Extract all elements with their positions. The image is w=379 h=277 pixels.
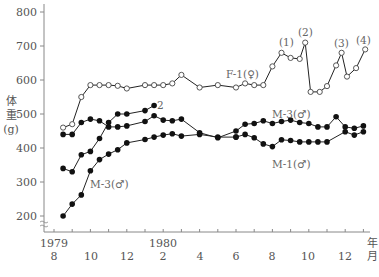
open-marker-icon (97, 83, 102, 88)
label-m3-upper: M-3(♂) (272, 108, 311, 120)
filled-marker-icon (270, 121, 276, 127)
filled-marker-icon (142, 137, 148, 143)
filled-marker-icon (124, 140, 130, 146)
filled-marker-icon (288, 138, 294, 144)
filled-marker-icon (124, 123, 130, 129)
open-marker-icon (297, 56, 302, 61)
filled-marker-icon (352, 132, 358, 138)
filled-marker-icon (315, 124, 321, 130)
filled-marker-icon (97, 157, 103, 163)
filled-marker-icon (306, 121, 312, 127)
label-f1: F-1(♀) (226, 68, 259, 80)
filled-marker-icon (361, 123, 367, 129)
filled-marker-icon (306, 139, 312, 145)
filled-marker-icon (179, 116, 185, 122)
series-4 (60, 131, 239, 219)
svg-text:体: 体 (6, 94, 17, 108)
svg-text:8: 8 (51, 250, 58, 263)
series-layer (60, 40, 368, 219)
filled-marker-icon (342, 129, 348, 135)
open-marker-icon (344, 74, 349, 79)
filled-marker-icon (242, 121, 248, 127)
open-marker-icon (124, 86, 129, 91)
open-marker-icon (106, 83, 111, 88)
open-marker-icon (308, 89, 313, 94)
open-marker-icon (317, 89, 322, 94)
open-marker-icon (339, 50, 344, 55)
filled-marker-icon (251, 121, 257, 127)
filled-marker-icon (79, 152, 85, 158)
x-unit-year: 年 (367, 236, 378, 250)
filled-marker-icon (333, 114, 339, 120)
filled-marker-icon (242, 132, 248, 138)
svg-text:12: 12 (120, 250, 134, 263)
filled-marker-icon (261, 118, 267, 124)
filled-marker-icon (297, 139, 303, 145)
filled-marker-icon (79, 120, 85, 126)
label-m2: 2 (157, 99, 164, 111)
annotation-4: (4) (356, 34, 371, 46)
svg-text:12: 12 (338, 250, 352, 263)
svg-text:10: 10 (84, 250, 98, 263)
open-marker-icon (354, 66, 359, 71)
open-marker-icon (161, 83, 166, 88)
open-marker-icon (197, 85, 202, 90)
filled-marker-icon (297, 120, 303, 126)
y-tick-600: 600 (16, 74, 37, 87)
filled-marker-icon (142, 108, 148, 114)
filled-marker-icon (251, 135, 257, 141)
y-tick-800: 800 (16, 6, 37, 19)
open-marker-icon (61, 125, 66, 130)
filled-marker-icon (69, 169, 75, 175)
filled-marker-icon (315, 139, 321, 145)
filled-marker-icon (270, 144, 276, 150)
open-marker-icon (79, 94, 84, 99)
x-unit-month: 月 (367, 250, 378, 263)
filled-marker-icon (60, 166, 66, 172)
filled-marker-icon (142, 119, 148, 125)
open-marker-icon (288, 55, 293, 60)
x-year-1980: 1980 (149, 237, 177, 250)
open-marker-icon (142, 83, 147, 88)
filled-marker-icon (170, 118, 176, 124)
filled-marker-icon (124, 111, 130, 117)
svg-text:2: 2 (160, 250, 167, 263)
y-tick-700: 700 (16, 40, 37, 53)
y-ticks (40, 12, 44, 216)
y-tick-labels: 800 700 600 500 400 300 200 (16, 6, 37, 223)
filled-marker-icon (115, 147, 121, 153)
y-tick-500: 500 (16, 108, 37, 121)
filled-marker-icon (88, 116, 94, 122)
filled-marker-icon (160, 132, 166, 138)
series-0 (61, 40, 368, 130)
open-marker-icon (243, 81, 248, 86)
label-m1: M-1(♂) (272, 158, 311, 170)
filled-marker-icon (197, 132, 203, 138)
filled-marker-icon (261, 141, 267, 147)
filled-marker-icon (88, 149, 94, 155)
open-marker-icon (88, 83, 93, 88)
annotation-2: (2) (298, 26, 313, 38)
y-tick-400: 400 (16, 142, 37, 155)
open-marker-icon (170, 81, 175, 86)
open-marker-icon (179, 72, 184, 77)
weight-line-chart: 800 700 600 500 400 300 200 体 重 (g) 1979… (0, 0, 379, 277)
filled-marker-icon (160, 117, 166, 123)
filled-marker-icon (361, 129, 367, 135)
label-m3-lower: M-3(♂) (90, 178, 129, 190)
filled-marker-icon (342, 124, 348, 130)
filled-marker-icon (60, 132, 66, 138)
annotation-1: (1) (279, 36, 294, 48)
filled-marker-icon (79, 192, 85, 198)
y-tick-300: 300 (16, 176, 37, 189)
filled-marker-icon (97, 118, 103, 124)
svg-text:(g): (g) (3, 123, 19, 136)
open-marker-icon (324, 84, 329, 89)
filled-marker-icon (324, 124, 330, 130)
x-tick-labels: 1979 1980 8 10 12 2 4 6 8 10 12 年 月 (40, 236, 378, 263)
filled-marker-icon (179, 133, 185, 139)
svg-text:重: 重 (6, 108, 17, 122)
y-axis-title: 体 重 (g) (3, 94, 19, 136)
open-marker-icon (152, 83, 157, 88)
open-marker-icon (261, 83, 266, 88)
